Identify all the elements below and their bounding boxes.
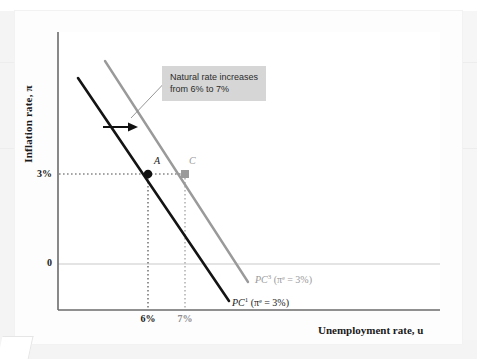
- y-axis-label: Inflation rate, π: [22, 44, 34, 204]
- data-point-a-label: A: [154, 155, 160, 166]
- data-point-c[interactable]: [181, 170, 189, 178]
- curve-label-pc1-tail: (πᵉ = 3%): [248, 297, 289, 308]
- x-axis-label: Unemployment rate, u: [318, 324, 423, 336]
- data-point-c-label: C: [189, 155, 196, 166]
- y-tick-label-0: 0: [18, 257, 52, 268]
- figure-page: Inflation rate, π Unemployment rate, u 3…: [0, 0, 477, 359]
- annotation-natural-rate: Natural rate increases from 6% to 7%: [162, 66, 266, 101]
- curve-label-pc3-base: PC: [255, 274, 268, 285]
- curve-label-pc1: PC1 (πᵉ = 3%): [232, 296, 289, 308]
- curve-label-pc3: PC3 (πᵉ = 3%): [255, 273, 312, 285]
- curve-label-pc1-base: PC: [232, 297, 245, 308]
- curve-label-pc3-tail: (πᵉ = 3%): [271, 274, 312, 285]
- x-tick-label-6pct: 6%: [131, 313, 165, 324]
- y-tick-label-3pct: 3%: [18, 168, 52, 179]
- data-point-a[interactable]: [144, 170, 153, 179]
- x-tick-label-7pct: 7%: [168, 313, 202, 324]
